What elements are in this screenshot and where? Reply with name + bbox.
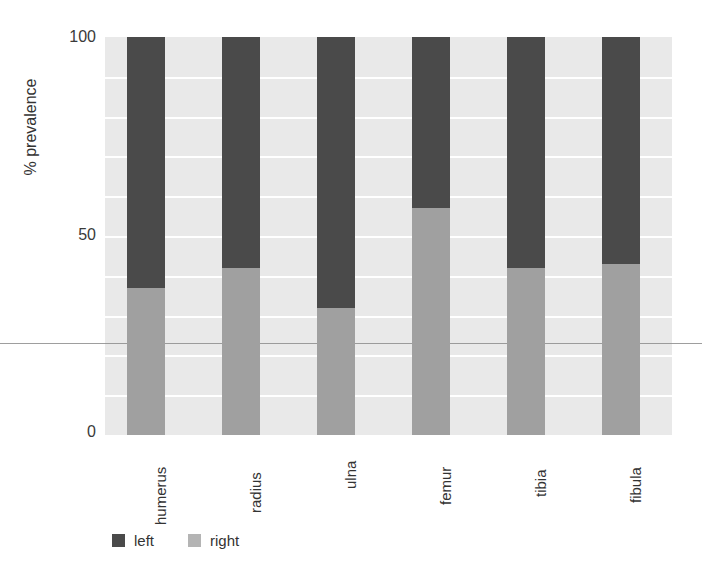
plot-area <box>105 37 672 435</box>
bar-segment-right <box>317 308 355 435</box>
x-tick-label-radius: radius <box>248 472 263 513</box>
y-tick-0: 0 <box>52 424 96 440</box>
legend-swatch-icon <box>188 534 201 547</box>
bar-group-femur[interactable] <box>412 37 450 435</box>
bar-group-radius[interactable] <box>222 37 260 435</box>
bar-segment-left <box>127 37 165 288</box>
bar-group-fibula[interactable] <box>602 37 640 435</box>
bar-group-tibia[interactable] <box>507 37 545 435</box>
x-tick-label-femur: femur <box>438 467 453 505</box>
bars-container <box>105 37 672 435</box>
bar-segment-right <box>602 264 640 435</box>
bar-segment-left <box>222 37 260 268</box>
stacked-bar-chart: % prevalence 100 50 0 <box>0 0 702 574</box>
bar-segment-right <box>412 208 450 435</box>
bar-segment-right <box>222 268 260 435</box>
x-tick-label-humerus: humerus <box>153 467 168 525</box>
y-tick-100: 100 <box>52 29 96 45</box>
legend-swatch-icon <box>112 534 125 547</box>
bar-group-ulna[interactable] <box>317 37 355 435</box>
bar-segment-left <box>602 37 640 264</box>
x-tick-label-fibula: fibula <box>628 467 643 503</box>
y-axis-title: % prevalence <box>20 62 42 192</box>
x-tick-label-tibia: tibia <box>533 469 548 497</box>
y-tick-50: 50 <box>52 227 96 243</box>
bar-segment-left <box>412 37 450 208</box>
bar-segment-left <box>317 37 355 308</box>
legend-label-left: left <box>134 533 154 548</box>
bar-group-humerus[interactable] <box>127 37 165 435</box>
x-axis-tick-labels: humerus radius ulna femur tibia fibula <box>105 441 672 531</box>
legend: left right <box>112 530 273 550</box>
legend-item-right[interactable]: right <box>188 533 239 548</box>
y-axis-title-label: % prevalence <box>20 62 42 192</box>
bar-segment-right <box>127 288 165 435</box>
x-tick-label-ulna: ulna <box>343 461 358 489</box>
legend-label-right: right <box>210 533 239 548</box>
legend-item-left[interactable]: left <box>112 533 154 548</box>
bar-segment-left <box>507 37 545 268</box>
bar-segment-right <box>507 268 545 435</box>
y-axis-tick-labels: 100 50 0 <box>48 0 96 574</box>
